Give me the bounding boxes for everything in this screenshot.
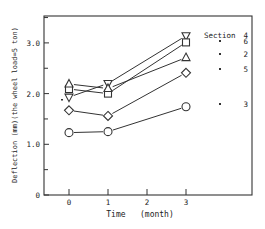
y-tick-label: 1.0: [26, 140, 40, 149]
legend-entry-6: 6: [243, 37, 248, 46]
legend-entry-5: 5: [243, 65, 248, 74]
circle-marker-icon: [65, 129, 73, 137]
x-axis-ticks: 0123: [67, 189, 189, 207]
legend: Section46253: [204, 31, 248, 109]
triangle-down-marker-icon: [65, 94, 73, 102]
series-line: [112, 75, 181, 113]
x-axis-label: Time (month): [106, 210, 173, 219]
circle-marker-icon: [182, 103, 190, 111]
plot-frame: [44, 16, 252, 195]
ditto-mark: [219, 40, 221, 42]
diamond-marker-icon: [104, 111, 113, 120]
deflection-chart: 01.02.03.0 0123 Section46253 Time (month…: [0, 0, 265, 229]
series-line: [74, 132, 103, 133]
ditto-mark: [219, 53, 221, 55]
diamond-marker-icon: [182, 68, 191, 77]
stray-mark: [61, 99, 63, 101]
square-marker-icon: [183, 39, 190, 46]
x-tick-label: 3: [184, 198, 189, 207]
series-line: [112, 45, 182, 91]
legend-entry-3: 3: [243, 100, 248, 109]
x-tick-label: 1: [106, 198, 111, 207]
diamond-marker-icon: [65, 106, 74, 115]
ditto-mark: [219, 103, 221, 105]
y-tick-label: 0: [35, 191, 40, 200]
triangle-up-marker-icon: [182, 53, 190, 61]
circle-marker-icon: [104, 128, 112, 136]
y-tick-label: 2.0: [26, 90, 40, 99]
y-axis-ticks: 01.02.03.0: [26, 18, 49, 200]
series-line: [113, 108, 181, 130]
triangle-up-marker-icon: [65, 79, 73, 87]
legend-header: Section: [204, 31, 236, 40]
y-tick-label: 3.0: [26, 39, 40, 48]
series-line: [112, 38, 181, 80]
triangle-up-marker-icon: [104, 84, 112, 92]
series-lines: [74, 38, 182, 132]
series-line: [113, 59, 182, 86]
x-tick-label: 0: [67, 198, 72, 207]
plot-border: [44, 16, 252, 195]
y-axis-label: Deflection (mm)(the wheel load=5 ton): [11, 27, 19, 183]
ditto-mark: [219, 68, 221, 70]
series-markers: [61, 33, 191, 137]
series-line: [74, 111, 103, 115]
x-tick-label: 2: [145, 198, 150, 207]
legend-entry-2: 2: [243, 50, 248, 59]
